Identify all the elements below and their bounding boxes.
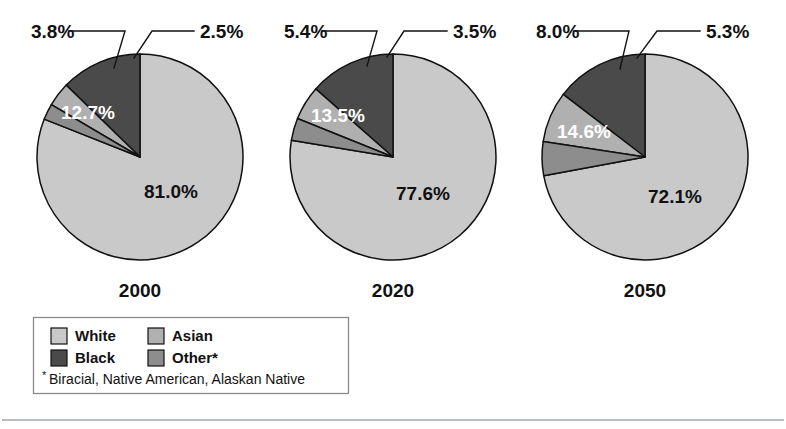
- leader-asian-2020: [322, 31, 377, 66]
- legend-label-white: White: [75, 327, 116, 344]
- label-other-2000: 2.5%: [200, 21, 243, 42]
- label-white-2000: 81.0%: [144, 181, 198, 202]
- label-asian-2000: 3.8%: [31, 21, 74, 42]
- year-label-2000: 2000: [119, 280, 161, 301]
- legend-swatch-black: [51, 350, 67, 366]
- legend-footnote: Biracial, Native American, Alaskan Nativ…: [49, 371, 305, 387]
- label-white-2050: 72.1%: [648, 186, 702, 207]
- legend-footnote-marker: *: [42, 369, 47, 381]
- legend-swatch-asian: [148, 328, 164, 344]
- pie-chart-2050: 8.0% 5.3% 14.6% 72.1% 2050: [536, 21, 749, 301]
- leader-other-2020: [387, 31, 447, 57]
- pie-2020-slices: [290, 54, 496, 260]
- pie-2000-slices: [37, 54, 243, 260]
- label-black-2050: 14.6%: [557, 121, 611, 142]
- pie-chart-figure: 3.8% 2.5% 12.7% 81.0% 2000 5.4% 3.5% 13.…: [0, 0, 786, 429]
- label-white-2020: 77.6%: [396, 183, 450, 204]
- label-other-2050: 5.3%: [706, 21, 749, 42]
- label-black-2000: 12.7%: [61, 102, 115, 123]
- label-asian-2020: 5.4%: [284, 21, 327, 42]
- year-label-2020: 2020: [372, 280, 414, 301]
- label-asian-2050: 8.0%: [536, 21, 579, 42]
- legend-label-other: Other*: [172, 349, 218, 366]
- pie-chart-2000: 3.8% 2.5% 12.7% 81.0% 2000: [31, 21, 243, 301]
- legend: White Asian Black Other* * Biracial, Nat…: [34, 318, 349, 394]
- label-other-2020: 3.5%: [453, 21, 496, 42]
- legend-label-black: Black: [75, 349, 116, 366]
- pie-2050-slices: [542, 54, 748, 260]
- year-label-2050: 2050: [624, 280, 666, 301]
- legend-swatch-other: [148, 350, 164, 366]
- legend-label-asian: Asian: [172, 327, 213, 344]
- label-black-2020: 13.5%: [311, 105, 365, 126]
- pie-chart-2020: 5.4% 3.5% 13.5% 77.6% 2020: [284, 21, 496, 301]
- legend-swatch-white: [51, 328, 67, 344]
